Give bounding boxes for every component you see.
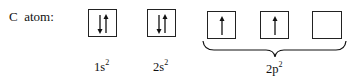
label-2s-text: 2s — [153, 60, 164, 74]
label-1s-text: 1s — [94, 60, 105, 74]
label-1s: 1s2 — [94, 60, 109, 75]
label-2p-sup: 2 — [279, 60, 283, 69]
label-1s-sup: 2 — [105, 58, 109, 67]
label-2p-text: 2p — [266, 62, 279, 76]
curly-brace-icon — [0, 0, 361, 81]
label-2p: 2p2 — [266, 62, 283, 77]
label-2s: 2s2 — [153, 60, 168, 75]
label-2s-sup: 2 — [164, 58, 168, 67]
